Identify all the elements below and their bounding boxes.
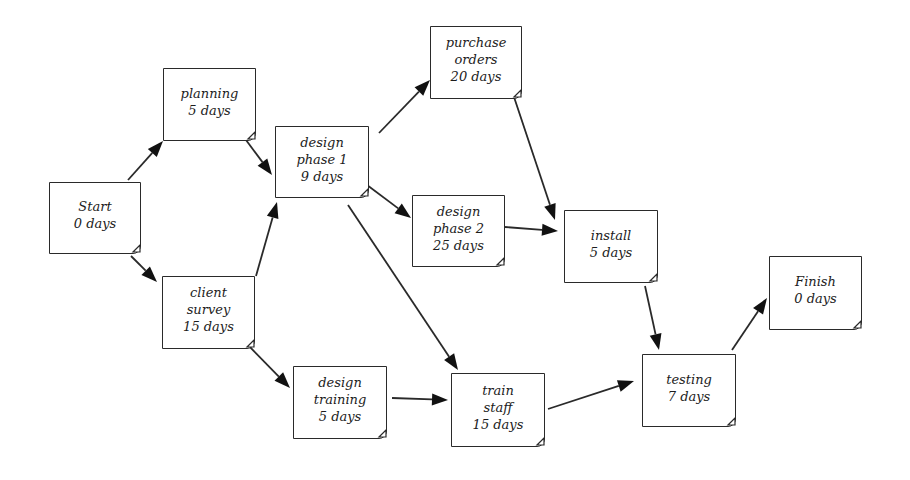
arrow-start-to-client-survey [131, 256, 157, 282]
node-label: purchase [446, 34, 507, 51]
node-design-training: designtraining5 days [293, 366, 387, 439]
node-label: training [314, 391, 367, 408]
node-duration: 15 days [473, 416, 524, 433]
arrow-design-phase-2-to-install [505, 224, 558, 236]
arrow-testing-to-finish [732, 298, 767, 350]
arrow-design-phase-1-to-purchase-orders [379, 80, 430, 133]
node-finish: Finish0 days [769, 256, 862, 330]
arrowhead-icon [267, 202, 279, 219]
arrowhead-icon [395, 204, 411, 218]
folded-corner-icon [359, 188, 369, 198]
node-train-staff: trainstaff15 days [451, 373, 545, 447]
node-duration: 20 days [451, 68, 502, 85]
node-duration: 25 days [433, 237, 484, 254]
arrowhead-icon [753, 298, 767, 315]
node-label: survey [187, 301, 231, 318]
arrow-purchase-orders-to-install [514, 97, 556, 220]
node-label: staff [484, 399, 513, 416]
folded-corner-icon [648, 273, 658, 283]
node-label: Finish [795, 273, 836, 290]
node-label: design [437, 203, 481, 220]
node-label: Start [78, 198, 111, 215]
folded-corner-icon [246, 131, 256, 141]
arrow-train-staff-to-testing [548, 380, 634, 409]
arrow-install-to-testing [645, 286, 661, 350]
node-testing: testing7 days [642, 354, 736, 427]
activity-network-diagram: Start0 daysplanning5 daysclientsurvey15 … [0, 0, 910, 480]
folded-corner-icon [495, 257, 505, 267]
arrowhead-icon [444, 353, 458, 370]
node-duration: 5 days [319, 408, 362, 425]
node-label: train [482, 382, 514, 399]
folded-corner-icon [512, 89, 522, 99]
folded-corner-icon [131, 244, 141, 254]
node-label: phase 1 [296, 151, 347, 168]
arrow-design-training-to-train-staff [392, 393, 448, 405]
arrowhead-icon [258, 159, 272, 175]
node-purchase-orders: purchaseorders20 days [430, 26, 522, 99]
node-label: design [300, 134, 344, 151]
node-design-phase-1: designphase 19 days [275, 126, 369, 198]
node-label: design [318, 374, 362, 391]
node-label: planning [181, 85, 239, 102]
arrowhead-icon [542, 224, 558, 236]
node-label: phase 2 [433, 220, 484, 237]
arrow-planning-to-design-phase-1 [246, 140, 272, 175]
node-label: testing [666, 371, 712, 388]
node-duration: 9 days [301, 168, 344, 185]
arrowhead-icon [650, 333, 662, 350]
folded-corner-icon [726, 417, 736, 427]
folded-corner-icon [377, 429, 387, 439]
node-planning: planning5 days [163, 68, 256, 141]
node-duration: 15 days [183, 318, 234, 335]
arrow-design-phase-1-to-design-phase-2 [367, 185, 411, 218]
node-duration: 5 days [188, 102, 231, 119]
node-duration: 5 days [590, 244, 633, 261]
node-client-survey: clientsurvey15 days [162, 276, 255, 349]
arrow-start-to-planning [128, 141, 163, 180]
node-label: orders [455, 51, 498, 68]
node-label: client [190, 284, 227, 301]
arrow-client-survey-to-design-training [246, 343, 290, 388]
arrowhead-icon [544, 203, 555, 220]
node-start: Start0 days [49, 182, 141, 254]
arrowhead-icon [617, 380, 634, 391]
folded-corner-icon [852, 320, 862, 330]
node-duration: 7 days [668, 388, 711, 405]
node-label: install [591, 227, 632, 244]
node-duration: 0 days [794, 290, 837, 307]
node-install: install5 days [564, 210, 658, 283]
arrowhead-icon [432, 393, 448, 405]
node-design-phase-2: designphase 225 days [412, 195, 505, 267]
node-duration: 0 days [74, 215, 117, 232]
arrow-client-survey-to-design-phase-1 [256, 202, 278, 276]
folded-corner-icon [245, 339, 255, 349]
folded-corner-icon [535, 437, 545, 447]
